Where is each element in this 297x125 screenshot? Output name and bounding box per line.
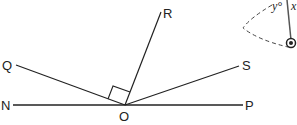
line-oq (16, 65, 125, 105)
label-n: N (1, 98, 10, 113)
label-o: O (119, 109, 129, 124)
var-label-x: x (290, 0, 297, 13)
line-os (125, 66, 239, 105)
label-p: P (245, 98, 254, 113)
inset-figure: y° x (243, 0, 297, 48)
label-q: Q (2, 58, 12, 73)
label-r: R (163, 6, 172, 21)
right-angle-marker (108, 86, 130, 99)
geometry-diagram: N O P Q R S y° x (0, 0, 297, 125)
line-or (125, 12, 161, 105)
angle-label-y: y° (271, 0, 282, 13)
label-s: S (242, 58, 251, 73)
